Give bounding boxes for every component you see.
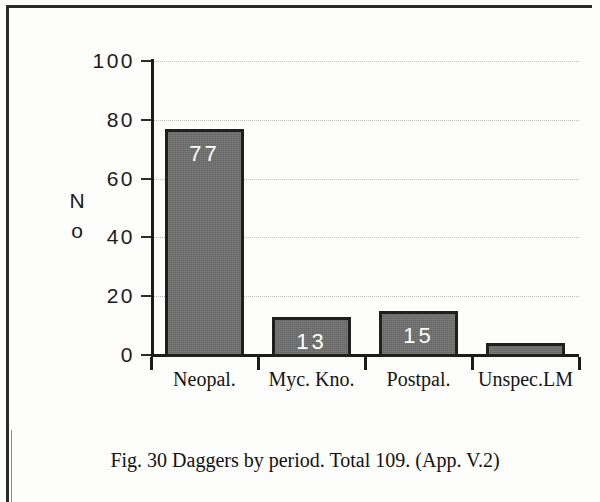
x-axis-category-label: Postpal. <box>365 368 472 391</box>
y-axis-tick-label: 20 <box>65 285 135 306</box>
bar-value-label: 13 <box>272 331 351 353</box>
y-axis-tick-label: 0 <box>65 344 135 365</box>
gridline <box>151 120 579 122</box>
bar-value-label: 77 <box>165 143 244 165</box>
x-axis-category-label: Unspec.LM <box>472 368 579 391</box>
y-axis-line <box>151 59 154 357</box>
figure-page: 020406080100 771315 Neopal.Myc. Kno.Post… <box>0 0 600 502</box>
y-axis-title: N o <box>62 186 92 246</box>
figure-caption: Fig. 30 Daggers by period. Total 109. (A… <box>40 449 570 472</box>
y-axis-tick-label: 80 <box>65 109 135 130</box>
x-axis-category-label: Neopal. <box>151 368 258 391</box>
y-axis-tick-label: 100 <box>65 50 135 71</box>
y-axis-title-line-2: o <box>62 216 92 246</box>
bar <box>486 343 565 357</box>
y-axis-title-line-1: N <box>62 186 92 216</box>
bar-value-label: 15 <box>379 325 458 347</box>
x-axis-category-label: Myc. Kno. <box>258 368 365 391</box>
gridline <box>151 61 579 63</box>
bar-chart: 020406080100 771315 Neopal.Myc. Kno.Post… <box>0 0 600 502</box>
